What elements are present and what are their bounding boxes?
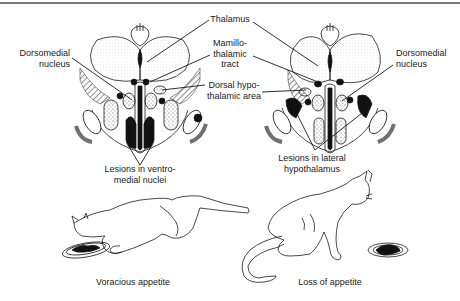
label-thalamus-text: Thalamus	[210, 14, 250, 24]
label-line: Dorsomedial	[10, 48, 70, 59]
label-line: hypothalamus	[271, 164, 353, 175]
label-dorsomedial-nucleus-right: Dorsomedial nucleus	[396, 48, 458, 69]
label-line: thalamic	[195, 49, 265, 60]
label-line: Lesions in lateral	[271, 153, 353, 164]
cat-eating-illustration	[61, 196, 249, 261]
label-line: Lesions in ventro-	[100, 164, 180, 175]
label-mamillothalamic-tract: Mamillo- thalamic tract	[195, 38, 265, 70]
label-line: nucleus	[10, 59, 70, 70]
label-line: Dorsomedial	[396, 48, 458, 59]
brain-section-left	[76, 23, 206, 153]
cat-sitting-illustration	[242, 170, 408, 282]
label-line: thalamic area	[200, 91, 268, 102]
caption-text: Loss of appetite	[298, 277, 362, 287]
label-dorsal-hypothalamic-area: Dorsal hypo- thalamic area	[200, 80, 268, 101]
label-line: tract	[195, 59, 265, 70]
label-dorsomedial-nucleus-left: Dorsomedial nucleus	[10, 48, 70, 69]
label-thalamus: Thalamus	[190, 14, 270, 25]
caption-voracious-appetite: Voracious appetite	[88, 277, 178, 288]
caption-text: Voracious appetite	[96, 277, 170, 287]
brain-section-right	[266, 23, 394, 153]
label-line: medial nuclei	[100, 175, 180, 186]
label-line: nucleus	[396, 59, 458, 70]
label-lesions-ventromedial: Lesions in ventro- medial nuclei	[100, 164, 180, 185]
label-lesions-lateral: Lesions in lateral hypothalamus	[271, 153, 353, 174]
caption-loss-of-appetite: Loss of appetite	[290, 277, 370, 288]
label-line: Dorsal hypo-	[200, 80, 268, 91]
label-line: Mamillo-	[195, 38, 265, 49]
